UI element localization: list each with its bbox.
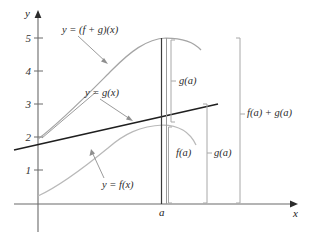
y-axis-label: y (25, 8, 30, 19)
leader-line-sum-curve (78, 36, 106, 62)
y-tick-label-2: 2 (17, 132, 31, 143)
x-tick-label-a: a (159, 207, 165, 218)
y-tick-label-3: 3 (17, 99, 31, 110)
bracket-f-at-a (169, 127, 173, 203)
measure-label-sum-at-a: f(a) + g(a) (247, 108, 292, 119)
leader-line-g-curve (100, 99, 130, 119)
bracket-g-at-a-right (203, 104, 212, 203)
measure-label-f-at-a: f(a) (176, 148, 191, 159)
bracket-sum-at-a (236, 38, 245, 203)
curve-f-plus-g (38, 38, 201, 139)
curve-label-g: y = g(x) (85, 88, 119, 99)
function-sum-figure: 5 4 3 2 1 y x a y = (f + g)(x) y = g(x) … (0, 0, 314, 240)
y-axis-arrowhead (35, 10, 42, 18)
bracket-g-at-a-top (171, 40, 176, 122)
axes-group (14, 10, 298, 232)
leader-line-sum-origin (42, 92, 96, 138)
y-tick-label-5: 5 (17, 33, 31, 44)
figure-canvas (0, 0, 314, 240)
y-tick-label-1: 1 (17, 165, 31, 176)
curve-label-f: y = f(x) (102, 180, 134, 191)
line-g (14, 104, 218, 150)
measure-label-g-at-a-top: g(a) (179, 76, 197, 87)
measure-label-g-at-a-right: g(a) (214, 148, 232, 159)
y-tick-label-4: 4 (17, 66, 31, 77)
x-axis-label: x (293, 208, 298, 219)
leader-arrow-g-curve (126, 116, 133, 122)
leader-arrow-f-curve (90, 149, 96, 156)
curve-label-sum: y = (f + g)(x) (62, 25, 118, 36)
